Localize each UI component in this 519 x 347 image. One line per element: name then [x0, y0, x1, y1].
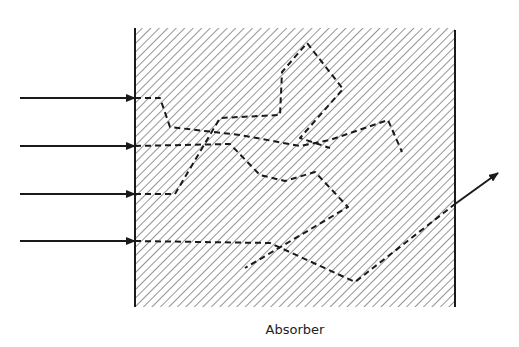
exit-arrow	[455, 173, 498, 204]
exit-arrow-line	[455, 173, 498, 204]
absorber-label: Absorber	[235, 322, 355, 337]
absorber-box	[135, 28, 455, 307]
incident-arrows	[20, 98, 135, 241]
hatch-fill	[135, 28, 455, 307]
absorber-diagram	[0, 0, 519, 347]
